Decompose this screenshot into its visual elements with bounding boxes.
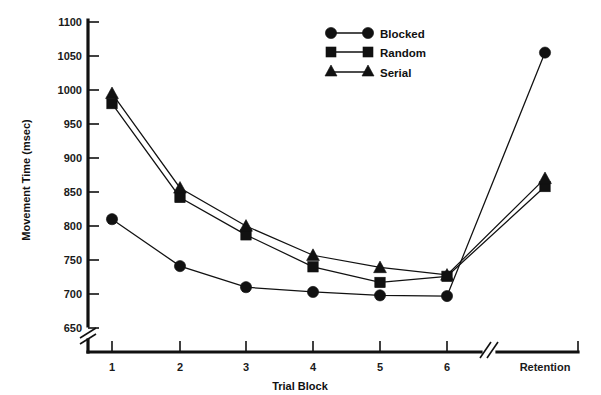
square-marker-icon: [363, 47, 373, 57]
y-tick-label: 900: [64, 152, 82, 164]
series-blocked: [106, 47, 550, 302]
circle-marker-icon: [307, 286, 318, 297]
y-axis-tick-labels: 1100 1050 1000 950 900 850 800 750 700 6…: [58, 16, 82, 334]
x-tick-label: 4: [310, 361, 317, 373]
circle-marker-icon: [374, 290, 385, 301]
movement-time-line-chart: 1100 1050 1000 950 900 850 800 750 700 6…: [0, 0, 601, 395]
circle-marker-icon: [441, 290, 452, 301]
y-tick-label: 800: [64, 220, 82, 232]
x-tick-label-retention: Retention: [520, 361, 571, 373]
circle-marker-icon: [106, 214, 117, 225]
y-tick-label: 700: [64, 288, 82, 300]
legend-label-random: Random: [380, 47, 426, 59]
series-random: [107, 98, 550, 287]
legend: Blocked Random Serial: [325, 27, 426, 78]
square-marker-icon: [308, 262, 318, 272]
triangle-marker-icon: [174, 182, 187, 194]
y-axis-ticks: [88, 22, 99, 328]
circle-marker-icon: [539, 47, 550, 58]
square-marker-icon: [375, 277, 385, 287]
y-tick-label: 850: [64, 186, 82, 198]
x-axis-tick-labels: 1 2 3 4 5 6 Retention: [109, 361, 571, 373]
circle-marker-icon: [174, 261, 185, 272]
y-tick-label: 950: [64, 118, 82, 130]
y-axis-title: Movement Time (msec): [20, 119, 32, 241]
triangle-marker-icon: [325, 65, 337, 76]
x-tick-label: 5: [377, 361, 383, 373]
x-tick-label: 6: [444, 361, 450, 373]
triangle-marker-icon: [240, 220, 253, 232]
series-layer: [106, 47, 552, 302]
series-line-serial: [112, 93, 545, 275]
x-axis-ticks: [112, 341, 447, 352]
triangle-marker-icon: [362, 65, 374, 76]
square-marker-icon: [107, 98, 117, 108]
x-tick-label: 3: [243, 361, 249, 373]
y-tick-label: 1050: [58, 50, 82, 62]
square-marker-icon: [326, 47, 336, 57]
y-tick-label: 1100: [58, 16, 82, 28]
square-marker-icon: [175, 192, 185, 202]
circle-marker-icon: [240, 282, 251, 293]
x-axis-title: Trial Block: [272, 380, 329, 392]
y-tick-label: 1000: [58, 84, 82, 96]
y-axis-break-slash-1: [80, 328, 96, 338]
triangle-marker-icon: [307, 249, 320, 261]
triangle-marker-icon: [106, 87, 119, 99]
legend-item-random[interactable]: Random: [326, 47, 426, 59]
legend-item-serial[interactable]: Serial: [325, 65, 411, 79]
chart-container: 1100 1050 1000 950 900 850 800 750 700 6…: [0, 0, 601, 395]
y-tick-label: 750: [64, 254, 82, 266]
x-tick-label: 1: [109, 361, 115, 373]
triangle-marker-icon: [539, 172, 552, 184]
legend-label-serial: Serial: [380, 67, 411, 79]
series-line-blocked: [112, 53, 545, 296]
series-serial: [106, 87, 552, 280]
circle-marker-icon: [325, 27, 336, 38]
x-tick-label: 2: [177, 361, 183, 373]
legend-item-blocked[interactable]: Blocked: [325, 27, 424, 39]
circle-marker-icon: [362, 27, 373, 38]
legend-label-blocked: Blocked: [380, 28, 425, 40]
y-tick-label: 650: [64, 322, 82, 334]
